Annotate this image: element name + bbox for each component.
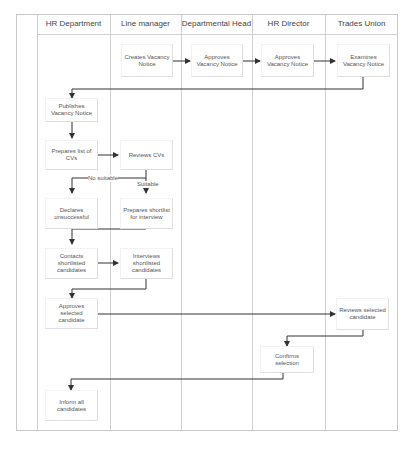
arrow-tu-review-to-confirm — [287, 330, 363, 346]
node-approve-selected: Approves selected candidate — [45, 298, 98, 329]
arrow-confirm-to-inform — [71, 373, 283, 390]
node-contact: Contacts shortlisted candidates — [45, 248, 98, 279]
node-confirm: Confirms selection — [260, 346, 314, 373]
arrow-tu-to-publish — [72, 77, 363, 98]
arrow-interview-to-approve — [72, 279, 146, 298]
node-hrd-approve: Approves Vacancy Notice — [261, 44, 314, 77]
node-inform: Inform all candidates — [45, 390, 98, 421]
node-review-cvs: Reviews CVs — [120, 140, 173, 170]
node-prep-list: Prepares list of CVs — [45, 140, 98, 170]
node-interview: Interviews shortlisted candidates — [120, 248, 173, 279]
node-tu-review: Reviews selected candidate — [336, 298, 389, 330]
node-declare: Declares unsuccessful — [45, 198, 98, 229]
node-publish: Publishes Vacancy Notice — [45, 98, 98, 122]
edge-label-no-suitable: No suitable — [88, 175, 118, 182]
node-create-notice: Creates Vacancy Notice — [121, 44, 173, 77]
node-dh-approve: Approves Vacancy Notice — [191, 44, 243, 77]
node-tu-examine: Examines Vacancy Notice — [337, 44, 390, 77]
node-prep-shortlist: Prepares shortlist for interview — [120, 198, 173, 229]
edge-label-suitable: Suitable — [137, 181, 159, 188]
